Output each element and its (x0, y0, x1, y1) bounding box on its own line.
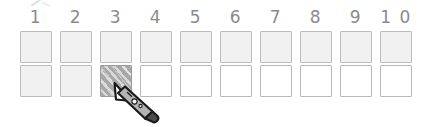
column-number-1: 1 (20, 6, 52, 28)
grid-cell-bottom-9[interactable] (340, 65, 372, 97)
column-number-3: 3 (100, 6, 132, 28)
grid-cell-top-9[interactable] (340, 31, 372, 63)
grid-row-bottom (20, 65, 412, 97)
column-number-8: 8 (300, 6, 332, 28)
number-grid-worksheet: 1 2 3 4 5 6 7 8 9 1 0 (0, 0, 427, 127)
column-number-7: 7 (260, 6, 292, 28)
grid-cell-bottom-7[interactable] (260, 65, 292, 97)
grid-row-top (20, 31, 412, 63)
column-number-9: 9 (340, 6, 372, 28)
grid-cell-top-1[interactable] (20, 31, 52, 63)
hatch-pattern-highlight (100, 65, 132, 97)
column-number-10: 1 0 (380, 6, 412, 28)
column-number-2: 2 (60, 6, 92, 28)
grid-cell-top-7[interactable] (260, 31, 292, 63)
grid-cell-top-6[interactable] (220, 31, 252, 63)
grid-cell-top-10[interactable] (380, 31, 412, 63)
grid-cell-bottom-10[interactable] (380, 65, 412, 97)
grid-cell-bottom-1[interactable] (20, 65, 52, 97)
grid-cell-top-8[interactable] (300, 31, 332, 63)
grid-cell-bottom-3[interactable] (100, 65, 132, 97)
column-number-header: 1 2 3 4 5 6 7 8 9 1 0 (20, 6, 412, 28)
grid-cell-top-2[interactable] (60, 31, 92, 63)
grid-cell-bottom-8[interactable] (300, 65, 332, 97)
grid-cell-bottom-5[interactable] (180, 65, 212, 97)
column-number-4: 4 (140, 6, 172, 28)
grid-cell-top-3[interactable] (100, 31, 132, 63)
column-number-6: 6 (220, 6, 252, 28)
grid-cell-bottom-6[interactable] (220, 65, 252, 97)
column-number-5: 5 (180, 6, 212, 28)
grid-cell-top-4[interactable] (140, 31, 172, 63)
grid-cell-top-5[interactable] (180, 31, 212, 63)
grid-cell-bottom-2[interactable] (60, 65, 92, 97)
grid-cell-bottom-4[interactable] (140, 65, 172, 97)
